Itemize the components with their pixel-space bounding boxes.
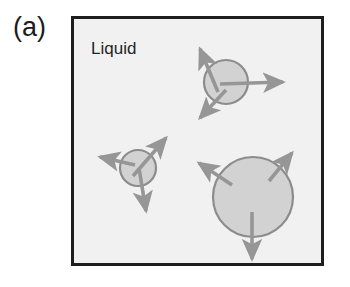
panel-label: (a) [13,12,46,42]
phase-diagram-box: Liquid [71,16,324,266]
phase-state-label: Liquid [91,39,136,58]
figure-panel-a: (a) Liquid [0,0,350,287]
